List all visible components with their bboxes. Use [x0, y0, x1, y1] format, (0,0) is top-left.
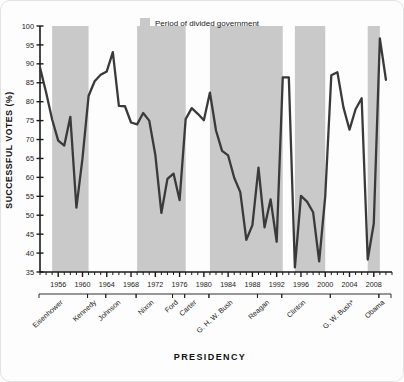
presidency-bracket [379, 294, 391, 298]
presidency-label: G. H. W. Bush [195, 298, 235, 335]
chart-svg: 35404550556065707580859095100 1956196019… [0, 0, 404, 382]
presidency-label: Nixon [136, 298, 156, 317]
legend-swatch [140, 18, 150, 27]
chart-page: 35404550556065707580859095100 1956196019… [0, 0, 404, 382]
y-tick-label: 80 [26, 97, 34, 106]
y-axis: 35404550556065707580859095100 [22, 22, 44, 277]
presidency-bracket [39, 294, 88, 298]
y-tick-label: 70 [26, 135, 34, 144]
x-tick-label: 1976 [172, 280, 188, 289]
x-tick-label: 1984 [220, 280, 236, 289]
presidency-label: G. W. Bush* [321, 298, 356, 331]
y-tick-label: 60 [26, 173, 34, 182]
presidency-bracket [88, 294, 106, 298]
divided-government-bands [52, 26, 380, 272]
presidency-bracket [330, 294, 379, 298]
y-tick-label: 55 [26, 192, 34, 201]
presidency-bracket [106, 294, 136, 298]
y-tick-label: 100 [22, 22, 34, 31]
presidency-bracket [257, 294, 281, 298]
divided-government-band [137, 26, 186, 272]
y-tick-label: 50 [26, 211, 34, 220]
x-tick-label: 1956 [50, 280, 66, 289]
presidency-brackets: EisenhowerKennedyJohnsonNixonFordCarterG… [31, 294, 391, 335]
presidency-bracket [209, 294, 258, 298]
x-axis-title: PRESIDENCY [174, 352, 247, 362]
presidency-label: Reagan [246, 298, 271, 322]
y-tick-label: 85 [26, 78, 34, 87]
x-tick-label: 2008 [366, 280, 382, 289]
presidency-label: Eisenhower [31, 297, 65, 329]
presidency-bracket [173, 294, 185, 298]
y-tick-label: 95 [26, 41, 34, 50]
presidency-label: Clinton [285, 298, 308, 320]
x-tick-label: 2004 [342, 280, 358, 289]
y-tick-label: 35 [26, 268, 34, 277]
y-tick-label: 65 [26, 154, 34, 163]
presidency-label: Carter [177, 297, 198, 317]
presidency-label: Obama [363, 298, 387, 320]
presidency-label: Johnson [96, 298, 122, 323]
line-chart: 35404550556065707580859095100 1956196019… [0, 0, 404, 382]
x-tick-label: 1992 [269, 280, 285, 289]
y-tick-label: 45 [26, 230, 34, 239]
x-tick-label: 1968 [123, 280, 139, 289]
y-axis-title: SUCCESSFUL VOTES (%) [4, 91, 14, 208]
x-tick-label: 1996 [293, 280, 309, 289]
x-axis: 1956196019641968197219761980198419881992… [40, 272, 392, 289]
legend-label: Period of divided government [155, 19, 260, 28]
x-tick-label: 2000 [317, 280, 333, 289]
presidency-label: Kennedy [71, 298, 98, 324]
y-tick-label: 40 [26, 249, 34, 258]
y-tick-label: 75 [26, 116, 34, 125]
x-tick-label: 1964 [99, 280, 115, 289]
x-tick-label: 1980 [196, 280, 212, 289]
x-tick-label: 1972 [147, 280, 163, 289]
presidency-bracket [136, 294, 172, 298]
y-tick-label: 90 [26, 59, 34, 68]
presidency-bracket [185, 294, 209, 298]
chart-legend: Period of divided government [140, 18, 260, 28]
x-tick-label: 1988 [244, 280, 260, 289]
presidency-bracket [282, 294, 331, 298]
x-tick-label: 1960 [74, 280, 90, 289]
